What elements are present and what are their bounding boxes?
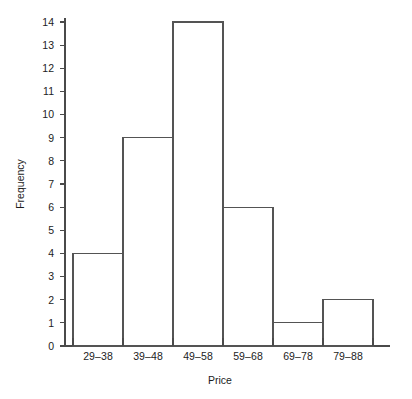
- x-tick-label-3: 59–68: [233, 350, 263, 362]
- bars-group: [73, 22, 373, 346]
- y-tick-label-1: 1: [48, 317, 54, 329]
- y-tick-label-14: 14: [42, 16, 54, 28]
- y-axis-title: Frequency: [14, 158, 26, 208]
- bar-2: [173, 22, 223, 346]
- x-tick-label-0: 29–38: [83, 350, 113, 362]
- x-tick-label-5: 79–88: [333, 350, 363, 362]
- bar-1: [123, 138, 173, 346]
- y-tick-label-0: 0: [48, 340, 54, 352]
- histogram-plot-area: 14 13 12 11 10 9 8 7 6 5 4 3 2 1 0: [0, 0, 412, 399]
- bar-0: [73, 253, 123, 346]
- y-tick-label-12: 12: [42, 62, 54, 74]
- y-tick-label-7: 7: [48, 178, 54, 190]
- y-tick-label-9: 9: [48, 132, 54, 144]
- y-tick-label-5: 5: [48, 224, 54, 236]
- y-tick-label-11: 11: [43, 85, 54, 97]
- y-tick-label-13: 13: [42, 39, 54, 51]
- bar-3: [223, 207, 273, 346]
- y-tick-label-8: 8: [48, 155, 54, 167]
- bar-4: [273, 323, 323, 346]
- y-tick-label-3: 3: [48, 270, 54, 282]
- histogram-chart: 14 13 12 11 10 9 8 7 6 5 4 3 2 1 0: [0, 0, 412, 399]
- x-tick-label-2: 49–58: [183, 350, 213, 362]
- y-tick-label-10: 10: [42, 108, 54, 120]
- bar-5: [323, 300, 373, 346]
- y-tick-label-4: 4: [48, 247, 54, 259]
- y-axis-ticks: [60, 22, 65, 346]
- y-tick-label-2: 2: [48, 294, 54, 306]
- y-tick-label-6: 6: [48, 201, 54, 213]
- x-tick-label-1: 39–48: [133, 350, 163, 362]
- x-axis-ticks: [73, 338, 373, 346]
- x-axis-title: Price: [208, 374, 232, 386]
- x-tick-label-4: 69–78: [283, 350, 313, 362]
